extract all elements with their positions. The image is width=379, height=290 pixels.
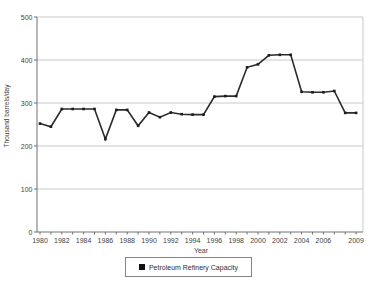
capacity-series-polyline — [40, 55, 356, 139]
data-point-marker-1985 — [93, 108, 96, 111]
data-point-marker-2007 — [333, 90, 336, 93]
y-tick-label-500: 500 — [21, 14, 33, 21]
y-tick-label-100: 100 — [21, 186, 33, 193]
data-point-marker-1994 — [191, 113, 194, 116]
x-tick-label-1994: 1994 — [185, 237, 201, 244]
data-point-marker-1993 — [180, 113, 183, 116]
data-point-marker-1981 — [50, 125, 53, 128]
x-tick-label-2002: 2002 — [272, 237, 288, 244]
data-point-marker-1983 — [71, 108, 74, 111]
x-tick-label-1988: 1988 — [119, 237, 135, 244]
x-axis-title: Year — [194, 247, 209, 254]
x-tick-label-1980: 1980 — [32, 237, 48, 244]
x-tick-label-1996: 1996 — [207, 237, 223, 244]
y-tick-label-400: 400 — [21, 57, 33, 64]
data-point-marker-1996 — [213, 95, 216, 98]
data-point-marker-1984 — [82, 108, 85, 111]
data-point-marker-2001 — [268, 54, 271, 57]
x-tick-label-1990: 1990 — [141, 237, 157, 244]
gridlines — [37, 17, 363, 232]
legend: Petroleum Refinery Capacity — [125, 257, 252, 277]
data-point-marker-2009 — [355, 112, 358, 115]
axis-tick-labels: 0100200300400500198019821984198619881990… — [21, 14, 364, 245]
data-point-marker-2003 — [289, 54, 292, 57]
data-point-marker-2004 — [300, 91, 303, 94]
x-tick-label-1982: 1982 — [54, 237, 70, 244]
data-point-marker-1988 — [126, 109, 129, 112]
chart-canvas: 0100200300400500198019821984198619881990… — [0, 0, 379, 290]
data-point-marker-1980 — [39, 122, 42, 125]
y-tick-label-200: 200 — [21, 143, 33, 150]
data-point-marker-1992 — [170, 111, 173, 114]
data-point-marker-1999 — [246, 66, 249, 69]
x-tick-label-1984: 1984 — [76, 237, 92, 244]
x-tick-label-1998: 1998 — [228, 237, 244, 244]
data-point-marker-1982 — [61, 108, 64, 111]
petroleum-refinery-capacity-line-chart: 0100200300400500198019821984198619881990… — [0, 0, 379, 256]
data-point-marker-1989 — [137, 125, 140, 128]
legend-series-marker-icon — [139, 264, 145, 270]
data-point-marker-2002 — [279, 54, 282, 57]
y-tick-label-300: 300 — [21, 100, 33, 107]
data-point-marker-1998 — [235, 95, 238, 98]
x-tick-label-2000: 2000 — [250, 237, 266, 244]
series-line — [39, 54, 358, 141]
data-point-marker-1997 — [224, 95, 227, 98]
axes — [34, 17, 363, 235]
x-tick-label-1992: 1992 — [163, 237, 179, 244]
data-point-marker-1986 — [104, 138, 107, 141]
y-axis-title: Thousand barrels/day — [3, 84, 11, 148]
x-tick-label-2004: 2004 — [294, 237, 310, 244]
legend-series-label: Petroleum Refinery Capacity — [149, 264, 238, 271]
data-point-marker-1990 — [148, 111, 151, 114]
data-point-marker-2008 — [344, 112, 347, 115]
x-tick-label-2006: 2006 — [316, 237, 332, 244]
y-tick-label-0: 0 — [29, 229, 33, 236]
data-point-marker-2005 — [311, 91, 314, 94]
x-tick-label-2009: 2009 — [348, 237, 364, 244]
data-point-marker-1987 — [115, 109, 118, 112]
data-point-marker-1995 — [202, 113, 205, 116]
data-point-marker-2006 — [322, 91, 325, 94]
data-point-marker-1991 — [159, 116, 162, 119]
x-tick-label-1986: 1986 — [98, 237, 114, 244]
data-point-marker-2000 — [257, 63, 260, 66]
